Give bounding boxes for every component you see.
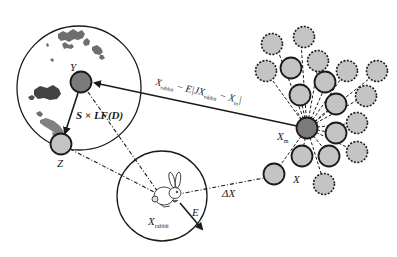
xm-label: Xm [276, 130, 289, 144]
y-label: Y [70, 61, 78, 73]
x-label: X [292, 173, 301, 185]
update-formula-label: Xrabbit − E|JXrabbit − Xm| [153, 76, 243, 107]
cloud-texture [28, 29, 105, 140]
delta-x-label: ΔX [221, 187, 236, 199]
z-label: Z [57, 157, 64, 169]
x-rabbit-label: Xrabbit [147, 215, 169, 229]
z-node [51, 134, 72, 155]
connection-lines [70, 92, 264, 196]
e-label: E [191, 206, 199, 218]
xm-node [297, 118, 318, 139]
hho-diagram: Y Z X Xm Xrabbit E ΔX S × LF(D) Xrabbit … [0, 0, 397, 257]
step-formula-label: S × LF(D) [76, 109, 123, 122]
x-node [264, 164, 285, 185]
y-node [71, 72, 92, 93]
